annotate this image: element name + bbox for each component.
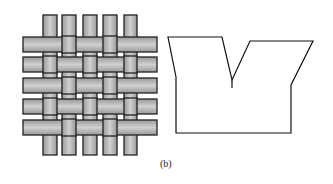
figure-caption: (b) [160,158,172,169]
weave-pattern [23,15,157,155]
figure-diagram [0,0,333,184]
notched-outline [168,37,313,133]
